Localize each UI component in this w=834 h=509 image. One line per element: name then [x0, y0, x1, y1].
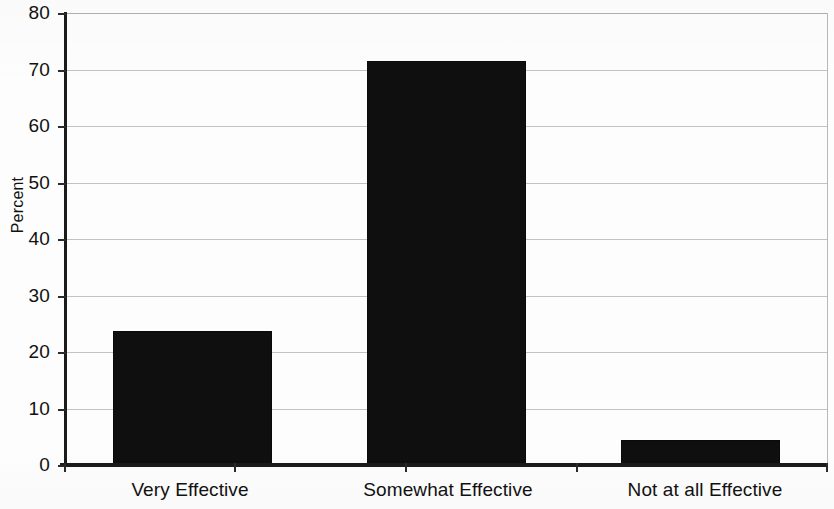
y-tick-mark: [58, 70, 66, 72]
y-tick-mark: [58, 296, 66, 298]
y-tick-mark: [58, 183, 66, 185]
y-tick-label: 10: [6, 399, 50, 418]
y-tick-label: 0: [6, 455, 50, 474]
x-axis-category-label-1: Somewhat Effective: [363, 480, 532, 499]
bar-somewhat-effective: [367, 61, 526, 465]
y-tick-label: 20: [6, 342, 50, 361]
bar-very-effective: [113, 331, 272, 465]
y-tick-mark: [58, 13, 66, 15]
x-tick-mark: [826, 463, 828, 472]
x-axis-category-label-2: Not at all Effective: [628, 480, 783, 499]
x-tick-mark: [576, 463, 578, 472]
y-tick-mark: [58, 239, 66, 241]
x-tick-mark: [405, 463, 407, 472]
y-axis-title: Percent: [9, 155, 27, 255]
plot-area: [65, 13, 828, 465]
chart-screenshot: 0 10 20 30 40 50 60 70 80 Very Effective…: [0, 0, 834, 509]
bar-not-at-all-effective: [621, 440, 780, 465]
y-tick-label: 30: [6, 286, 50, 305]
y-tick-mark: [58, 126, 66, 128]
x-axis-category-label-0: Very Effective: [131, 480, 248, 499]
x-tick-mark: [234, 463, 236, 472]
y-tick-mark: [58, 352, 66, 354]
y-tick-mark: [58, 409, 66, 411]
plot-frame-right-edge: [827, 13, 828, 465]
y-tick-label: 80: [6, 3, 50, 22]
gridline-80: [65, 13, 828, 14]
bar-chart-figure: 0 10 20 30 40 50 60 70 80 Very Effective…: [0, 0, 834, 509]
y-tick-label: 60: [6, 116, 50, 135]
y-tick-label: 70: [6, 60, 50, 79]
x-axis-line: [60, 463, 828, 467]
x-tick-mark: [64, 463, 66, 472]
